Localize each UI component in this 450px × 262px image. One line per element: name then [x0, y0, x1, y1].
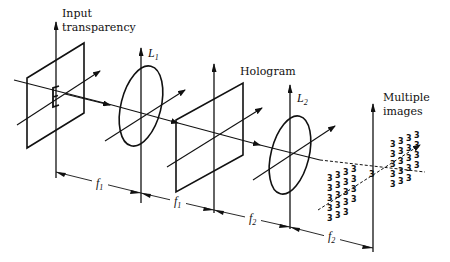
svg-text:3: 3 [351, 185, 357, 194]
svg-text:3: 3 [390, 150, 396, 159]
svg-text:3: 3 [390, 160, 396, 169]
svg-text:3: 3 [327, 184, 333, 193]
svg-text:3: 3 [398, 167, 404, 176]
lens-l1-label: L1 [147, 46, 159, 62]
svg-text:3: 3 [406, 164, 412, 173]
optical-axis [14, 80, 425, 172]
svg-text:3: 3 [398, 137, 404, 146]
svg-text:3: 3 [414, 151, 420, 160]
lens-l1 [105, 48, 185, 203]
svg-text:3: 3 [351, 165, 357, 174]
svg-text:3: 3 [398, 177, 404, 186]
svg-text:3: 3 [327, 214, 333, 223]
svg-text:3: 3 [343, 198, 349, 207]
svg-text:3: 3 [327, 194, 333, 203]
central-image-glyph: 3 [369, 170, 375, 179]
multiple-images-right-cluster: 3333 3333 3333 3333 333 [390, 131, 420, 189]
svg-text:3: 3 [335, 181, 341, 190]
svg-text:3: 3 [335, 191, 341, 200]
svg-text:3: 3 [414, 161, 420, 170]
optical-system-diagram: Input transparency L1 Hologram L2 3333 3… [0, 0, 450, 262]
hologram-label: Hologram [240, 65, 296, 78]
svg-text:3: 3 [414, 131, 420, 140]
svg-text:3: 3 [406, 144, 412, 153]
svg-text:3: 3 [343, 178, 349, 187]
svg-text:3: 3 [390, 140, 396, 149]
svg-text:3: 3 [335, 201, 341, 210]
input-transparency-label-line2: transparency [62, 21, 137, 34]
multiple-images-left-cluster: 3333 3333 3333 3333 333 [327, 165, 357, 223]
svg-text:3: 3 [351, 175, 357, 184]
lens-l2-label: L2 [296, 91, 308, 107]
svg-text:3: 3 [327, 174, 333, 183]
svg-text:3: 3 [406, 174, 412, 183]
svg-text:3: 3 [390, 180, 396, 189]
hologram-plane [167, 64, 262, 213]
svg-text:3: 3 [335, 171, 341, 180]
svg-text:3: 3 [343, 168, 349, 177]
svg-text:3: 3 [398, 147, 404, 156]
multiple-images-label-line1: Multiple [383, 91, 430, 104]
multiple-images-label-line2: images [383, 105, 423, 118]
svg-text:3: 3 [398, 157, 404, 166]
svg-text:3: 3 [414, 141, 420, 150]
svg-text:3: 3 [343, 188, 349, 197]
svg-text:3: 3 [327, 204, 333, 213]
svg-text:3: 3 [390, 170, 396, 179]
svg-text:3: 3 [406, 154, 412, 163]
svg-text:3: 3 [406, 134, 412, 143]
svg-text:3: 3 [343, 208, 349, 217]
input-transparency-label-line1: Input [62, 7, 93, 20]
svg-text:3: 3 [351, 195, 357, 204]
svg-text:3: 3 [335, 211, 341, 220]
